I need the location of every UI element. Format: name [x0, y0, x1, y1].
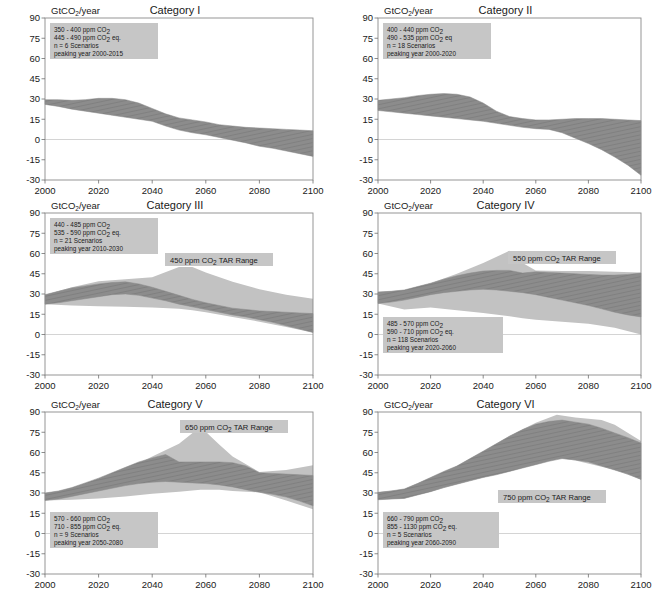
x-tick-label: 2000 — [34, 380, 55, 390]
annotation-line-4: peaking year 2060-2090 — [387, 539, 456, 547]
annotation-line-4: peaking year 2020-2060 — [387, 344, 456, 352]
panel-title: Category II — [479, 4, 533, 16]
x-tick-label: 2080 — [578, 579, 599, 590]
y-tick-label: -30 — [26, 568, 40, 579]
x-tick-label: 2040 — [473, 185, 494, 195]
y-tick-label: -30 — [359, 369, 373, 380]
y-tick-label: 30 — [29, 487, 40, 498]
x-tick-label: 2080 — [249, 380, 270, 390]
y-axis-label: GtCO2/year — [384, 399, 433, 411]
x-tick-label: 2020 — [420, 579, 441, 590]
y-tick-label: 15 — [362, 114, 373, 125]
y-tick-label: 90 — [29, 12, 40, 23]
annotation-line-4: peaking year 2050-2080 — [54, 539, 123, 547]
panel-title: Category VI — [476, 398, 534, 410]
y-tick-label: 45 — [362, 467, 373, 478]
y-tick-label: -15 — [359, 349, 373, 360]
y-tick-label: -15 — [359, 154, 373, 165]
annotation-line-3: n = 21 Scenarios — [54, 237, 102, 244]
y-axis-label: GtCO2/year — [51, 399, 100, 411]
x-tick-label: 2040 — [473, 579, 494, 590]
y-tick-label: 45 — [362, 73, 373, 84]
y-tick-label: -30 — [359, 174, 373, 185]
y-tick-label: 45 — [29, 467, 40, 478]
x-tick-label: 2040 — [142, 579, 163, 590]
x-tick-label: 2000 — [367, 380, 388, 390]
x-tick-label: 2040 — [473, 380, 494, 390]
y-tick-label: 15 — [362, 508, 373, 519]
chart-panel-2: 9075604530150-15-30200020202040206020802… — [330, 0, 653, 195]
x-tick-label: 2060 — [195, 579, 216, 590]
x-tick-label: 2000 — [34, 579, 55, 590]
x-tick-label: 2040 — [142, 185, 163, 195]
y-tick-label: 75 — [29, 427, 40, 438]
annotation-line-3: n = 6 Scenarios — [54, 42, 99, 49]
x-tick-label: 2060 — [525, 185, 546, 195]
x-tick-label: 2080 — [249, 579, 270, 590]
x-tick-label: 2060 — [195, 185, 216, 195]
y-tick-label: -30 — [26, 369, 40, 380]
figure-panel-grid: 9075604530150-15-30200020202040206020802… — [0, 0, 653, 590]
chart-panel-5: 9075604530150-15-30200020202040206020802… — [0, 390, 330, 590]
chart-panel-6: 9075604530150-15-30200020202040206020802… — [330, 390, 653, 590]
y-tick-label: 30 — [362, 288, 373, 299]
annotation-line-3: n = 118 Scenarios — [387, 336, 438, 343]
annotation-line-4: peaking year 2000-2015 — [54, 50, 123, 58]
y-tick-label: 30 — [362, 487, 373, 498]
annotation-line-3: n = 5 Scenarios — [387, 531, 432, 538]
y-tick-label: 15 — [29, 508, 40, 519]
y-tick-label: -15 — [26, 154, 40, 165]
panel-title: Category IV — [476, 199, 535, 211]
x-tick-label: 2000 — [367, 579, 388, 590]
y-tick-label: 30 — [362, 93, 373, 104]
y-tick-label: 75 — [362, 427, 373, 438]
x-tick-label: 2100 — [302, 185, 323, 195]
y-tick-label: 0 — [35, 329, 40, 340]
y-axis-label: GtCO2/year — [51, 200, 100, 212]
annotation-line-3: n = 9 Scenarios — [54, 531, 99, 538]
y-tick-label: 0 — [35, 134, 40, 145]
chart-svg: 9075604530150-15-30200020202040206020802… — [0, 195, 330, 390]
y-tick-label: 45 — [29, 73, 40, 84]
scenario-range-band — [378, 94, 641, 176]
y-tick-label: 60 — [29, 248, 40, 259]
x-tick-label: 2080 — [578, 380, 599, 390]
y-tick-label: 45 — [362, 268, 373, 279]
y-tick-label: 60 — [29, 53, 40, 64]
y-tick-label: 60 — [362, 53, 373, 64]
y-tick-label: 30 — [29, 93, 40, 104]
y-tick-label: 90 — [362, 406, 373, 417]
chart-svg: 9075604530150-15-30200020202040206020802… — [330, 195, 653, 390]
y-tick-label: 60 — [362, 447, 373, 458]
x-tick-label: 2020 — [88, 579, 109, 590]
y-tick-label: -15 — [26, 548, 40, 559]
x-tick-label: 2100 — [302, 579, 323, 590]
y-tick-label: -15 — [359, 548, 373, 559]
x-tick-label: 2100 — [630, 185, 651, 195]
panel-title: Category III — [147, 199, 204, 211]
y-tick-label: 90 — [29, 207, 40, 218]
chart-panel-1: 9075604530150-15-30200020202040206020802… — [0, 0, 330, 195]
y-tick-label: 0 — [368, 329, 373, 340]
y-tick-label: 75 — [29, 33, 40, 44]
chart-panel-4: 9075604530150-15-30200020202040206020802… — [330, 195, 653, 390]
y-tick-label: -30 — [359, 568, 373, 579]
y-tick-label: 90 — [29, 406, 40, 417]
x-tick-label: 2060 — [195, 380, 216, 390]
y-tick-label: 15 — [29, 114, 40, 125]
x-tick-label: 2060 — [525, 380, 546, 390]
annotation-line-3: n = 18 Scenarios — [387, 42, 435, 49]
y-tick-label: 75 — [362, 33, 373, 44]
x-tick-label: 2020 — [88, 185, 109, 195]
y-tick-label: 15 — [362, 309, 373, 320]
y-tick-label: 90 — [362, 12, 373, 23]
x-tick-label: 2100 — [630, 380, 651, 390]
y-tick-label: 0 — [368, 528, 373, 539]
scenario-range-band — [45, 98, 313, 156]
y-axis-label: GtCO2/year — [384, 200, 433, 212]
y-tick-label: 60 — [29, 447, 40, 458]
y-tick-label: 30 — [29, 288, 40, 299]
chart-panel-3: 9075604530150-15-30200020202040206020802… — [0, 195, 330, 390]
chart-svg: 9075604530150-15-30200020202040206020802… — [0, 0, 330, 195]
annotation-line-4: peaking year 2000-2020 — [387, 50, 456, 58]
